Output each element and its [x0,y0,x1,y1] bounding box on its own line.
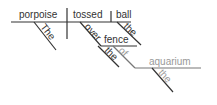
prep2-object-word: aquarium [149,56,191,67]
prep2-article-word: the [157,67,175,85]
preposition2-word: of [117,45,131,59]
verb-word: tossed [73,9,102,20]
subject-word: porpoise [19,9,58,20]
subject-article-word: The [38,21,58,42]
prep1-object-word: fence [104,34,129,45]
preposition1-word: over [83,21,105,43]
sentence-diagram: porpoise tossed ball The the over fence … [0,0,217,105]
object-word: ball [116,9,132,20]
